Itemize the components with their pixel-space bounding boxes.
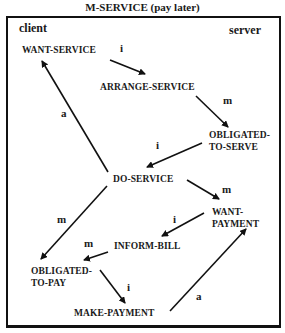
edge-label-do-to-want-payment: m xyxy=(222,183,231,195)
node-want-payment-line2: PAYMENT xyxy=(212,218,259,230)
node-do-service: DO-SERVICE xyxy=(113,173,173,185)
node-want-service: WANT-SERVICE xyxy=(22,44,96,56)
edge-label-arrange-to-obligated-serve: m xyxy=(223,94,232,106)
node-want-payment: WANT- PAYMENT xyxy=(212,206,259,230)
node-make-payment: MAKE-PAYMENT xyxy=(74,307,154,319)
node-obligated-to-serve: OBLIGATED- TO-SERVE xyxy=(209,129,270,153)
edge-do-service-to-want-service xyxy=(42,61,108,172)
node-obligated-to-pay-line2: TO-PAY xyxy=(31,277,92,289)
node-obligated-to-serve-line1: OBLIGATED- xyxy=(209,129,270,141)
edge-label-obligated-serve-to-do: i xyxy=(156,139,159,151)
edge-label-do-to-obligated-pay: m xyxy=(57,213,66,225)
node-inform-bill: INFORM-BILL xyxy=(114,240,181,252)
edge-want-service-to-arrange-service xyxy=(110,60,145,74)
edge-do-service-to-want-payment xyxy=(187,180,219,199)
node-obligated-to-pay: OBLIGATED- TO-PAY xyxy=(31,265,92,289)
edge-inform-bill-to-obligated-to-pay xyxy=(84,252,108,260)
edge-do-service-to-obligated-to-pay xyxy=(41,186,107,259)
edge-make-payment-to-want-payment xyxy=(170,229,246,311)
edge-label-want-to-arrange: i xyxy=(120,42,123,54)
edge-obligated-to-pay-to-make-payment xyxy=(100,270,125,303)
node-want-payment-line1: WANT- xyxy=(212,206,259,218)
node-arrange-service: ARRANGE-SERVICE xyxy=(100,81,195,93)
edge-label-make-to-want-payment: a xyxy=(196,290,202,302)
edge-label-do-to-want-service: a xyxy=(61,107,67,119)
edge-label-obligated-pay-to-make: i xyxy=(127,281,130,293)
node-obligated-to-serve-line2: TO-SERVE xyxy=(209,141,270,153)
edge-want-payment-to-inform-bill xyxy=(162,213,204,236)
edge-label-inform-to-obligated-pay: m xyxy=(84,237,93,249)
node-obligated-to-pay-line1: OBLIGATED- xyxy=(31,265,92,277)
edge-label-want-payment-to-inform: i xyxy=(173,213,176,225)
